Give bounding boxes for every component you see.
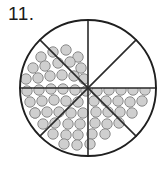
sector-dot (30, 108, 40, 118)
sector-dot (125, 97, 135, 107)
sector-dot (73, 130, 83, 140)
sector-dot (49, 95, 59, 105)
sector-dot (137, 96, 147, 106)
sector-dot (75, 119, 85, 129)
sector-dot (113, 96, 123, 106)
sector-dot (40, 61, 50, 71)
sector-dot (61, 45, 71, 55)
sector-dot (91, 107, 101, 117)
sector-dot (37, 96, 47, 106)
sector-dot (33, 73, 43, 83)
sector-dot (61, 96, 71, 106)
sector-dot (28, 63, 38, 73)
sector-dot (48, 129, 58, 139)
sector-dot (57, 70, 67, 80)
sector-dot (42, 107, 52, 117)
sector-dot (78, 108, 88, 118)
sector-dot (90, 118, 100, 128)
sector-dot (21, 74, 31, 84)
fraction-circle-figure (0, 0, 166, 176)
sector-dot (38, 119, 48, 129)
sector-dot (102, 119, 112, 129)
sector-dot (127, 108, 137, 118)
worksheet-problem-item: 11. (0, 0, 166, 176)
sector-dot (25, 97, 35, 107)
sector-dot (100, 129, 110, 139)
sector-dot (63, 119, 73, 129)
sector-dot (72, 140, 82, 150)
sector-dot (59, 139, 69, 149)
sector-dot (45, 71, 55, 81)
